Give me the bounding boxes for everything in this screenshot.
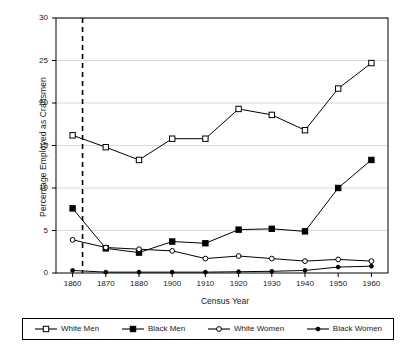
- series-line: [73, 240, 372, 261]
- data-point-marker: [369, 60, 374, 65]
- data-point-marker: [270, 269, 274, 273]
- data-point-marker: [104, 270, 108, 274]
- data-point-marker: [269, 112, 274, 117]
- x-axis-ticks: [73, 273, 372, 277]
- legend-item-white-men[interactable]: White Men: [34, 324, 99, 334]
- data-point-marker: [217, 327, 222, 332]
- data-point-marker: [136, 157, 141, 162]
- x-axis-title: Census Year: [60, 296, 390, 306]
- data-point-marker: [103, 145, 108, 150]
- legend-marker-open-circle-icon: [207, 324, 231, 334]
- data-point-marker: [336, 185, 341, 190]
- data-point-marker: [71, 269, 75, 273]
- legend-item-label: White Men: [61, 324, 99, 334]
- data-point-marker: [316, 327, 320, 331]
- legend-item-black-women[interactable]: Black Women: [306, 324, 382, 334]
- data-point-marker: [203, 241, 208, 246]
- data-point-marker: [103, 245, 108, 250]
- data-point-marker: [236, 254, 241, 259]
- data-point-marker: [302, 229, 307, 234]
- y-tick-label: 15: [22, 141, 48, 150]
- data-point-marker: [302, 128, 307, 133]
- legend-item-label: Black Men: [148, 324, 185, 334]
- data-point-marker: [170, 239, 175, 244]
- y-tick-label: 0: [22, 268, 48, 277]
- data-point-marker: [170, 136, 175, 141]
- legend-marker-open-square-icon: [34, 324, 58, 334]
- data-point-marker: [70, 206, 75, 211]
- y-axis-ticks: [52, 18, 56, 273]
- data-point-marker: [170, 249, 175, 254]
- data-point-marker: [269, 226, 274, 231]
- data-point-marker: [336, 86, 341, 91]
- data-point-marker: [336, 265, 340, 269]
- y-tick-label: 20: [22, 98, 48, 107]
- data-point-marker: [236, 227, 241, 232]
- data-point-marker: [70, 133, 75, 138]
- chart-figure: Percentage Employed as Craftsmen Census …: [0, 0, 410, 351]
- data-point-marker: [370, 264, 374, 268]
- data-point-marker: [203, 256, 208, 261]
- data-point-marker: [137, 247, 142, 252]
- data-point-marker: [130, 326, 135, 331]
- data-point-marker: [369, 259, 374, 264]
- y-tick-label: 30: [22, 13, 48, 22]
- series-black-men: [70, 157, 374, 255]
- legend-item-black-men[interactable]: Black Men: [121, 324, 185, 334]
- data-point-marker: [236, 106, 241, 111]
- data-point-marker: [170, 270, 174, 274]
- chart-legend: White MenBlack MenWhite WomenBlack Women: [22, 318, 394, 340]
- y-tick-label: 5: [22, 226, 48, 235]
- data-point-marker: [369, 157, 374, 162]
- data-point-marker: [43, 326, 48, 331]
- series-line: [73, 160, 372, 253]
- data-point-marker: [137, 270, 141, 274]
- legend-marker-filled-circle-icon: [306, 324, 330, 334]
- data-point-marker: [303, 259, 308, 264]
- y-tick-label: 10: [22, 183, 48, 192]
- series-line: [73, 266, 372, 272]
- legend-item-white-women[interactable]: White Women: [207, 324, 284, 334]
- data-point-marker: [336, 257, 341, 262]
- data-point-marker: [237, 270, 241, 274]
- series-white-men: [70, 60, 374, 162]
- data-point-marker: [203, 136, 208, 141]
- data-point-marker: [303, 269, 307, 273]
- series-white-women: [70, 237, 374, 263]
- data-point-marker: [70, 237, 75, 242]
- data-point-marker: [204, 270, 208, 274]
- x-tick-label: 1960: [351, 279, 391, 288]
- data-point-marker: [269, 256, 274, 261]
- legend-marker-filled-square-icon: [121, 324, 145, 334]
- y-tick-label: 25: [22, 56, 48, 65]
- legend-item-label: White Women: [234, 324, 284, 334]
- legend-item-label: Black Women: [333, 324, 382, 334]
